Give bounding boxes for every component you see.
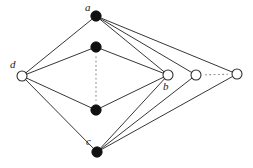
graph-edge-d-a [26,19,93,73]
graph-edge-a-b [100,19,165,72]
graph-node-d[interactable] [17,71,27,81]
node-label-d: d [10,59,16,70]
node-group [17,11,242,157]
edge-group [25,18,233,150]
graph-figure: acdb [0,0,253,168]
graph-node-unlabeled-m2[interactable] [91,105,101,115]
node-label-b: b [163,81,169,92]
node-label-c: c [86,136,91,147]
graph-node-unlabeled-m1[interactable] [91,42,101,52]
graph-edge-m2-b [100,77,164,108]
graph-node-c[interactable] [92,147,102,157]
graph-edge-d-m1 [26,49,91,75]
graph-edge-a-r2 [100,18,232,72]
graph-edge-c-r1 [101,78,193,149]
graph-node-unlabeled-r2[interactable] [232,69,242,79]
graph-canvas [0,0,253,168]
graph-node-a[interactable] [91,11,101,21]
graph-edge-d-c [25,79,93,148]
graph-edge-a-r1 [100,18,192,72]
graph-edge-c-b [100,78,165,148]
graph-node-unlabeled-r1[interactable] [191,70,201,80]
graph-node-b[interactable] [163,70,173,80]
graph-edge-m1-b [100,49,163,74]
node-label-a: a [85,2,91,13]
graph-edge-d-m2 [26,78,91,108]
dotted-connector-r1-r2 [206,74,228,75]
